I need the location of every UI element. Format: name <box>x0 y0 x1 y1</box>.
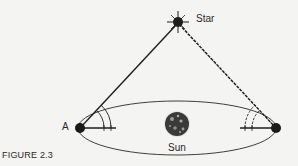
angle-arc-a-inner <box>96 110 104 128</box>
sun-label: Sun <box>168 143 186 153</box>
star-icon <box>167 11 189 33</box>
earth-position-b <box>271 123 281 133</box>
sightline-from-a <box>80 24 177 128</box>
sun-icon <box>164 111 190 137</box>
parallax-figure <box>0 0 298 166</box>
point-a-label: A <box>62 122 69 132</box>
parallax-diagram <box>0 0 298 166</box>
angle-arc-b-inner <box>252 111 259 128</box>
sightline-from-b <box>179 24 276 128</box>
earth-position-a <box>75 123 85 133</box>
figure-caption: FIGURE 2.3 <box>2 151 53 160</box>
star-label: Star <box>196 14 214 24</box>
sightline-from-b-dashed <box>180 26 274 126</box>
